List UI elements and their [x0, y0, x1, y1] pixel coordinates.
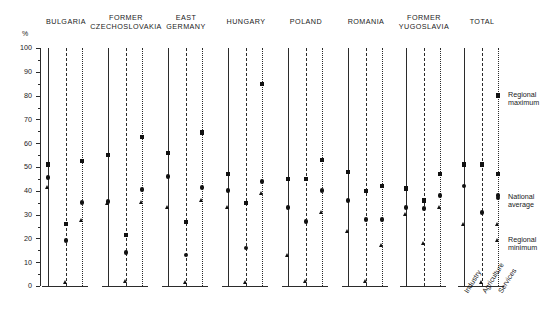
- y-axis-line: [40, 48, 41, 286]
- marker-agriculture-circle: [124, 250, 129, 255]
- marker-agriculture-circle: [244, 246, 249, 251]
- y-axis-tick: [36, 72, 40, 73]
- panel-baseline: [222, 286, 268, 287]
- marker-industry-triangle: [165, 205, 169, 209]
- y-axis-tick-label-30: 30: [10, 211, 32, 218]
- series-line-agriculture: [246, 48, 247, 286]
- marker-services-triangle: [319, 210, 323, 214]
- panel-title-east-germany: EAST GERMANY: [148, 14, 224, 31]
- marker-services-triangle: [495, 222, 499, 226]
- series-line-industry: [48, 48, 49, 286]
- marker-agriculture-square: [304, 177, 308, 181]
- y-axis-tick-label-70: 70: [10, 116, 32, 123]
- marker-agriculture-triangle: [123, 279, 127, 283]
- marker-industry-square: [404, 186, 408, 190]
- legend-marker-square: [496, 93, 500, 97]
- y-axis-tick: [36, 167, 40, 168]
- marker-industry-square: [286, 177, 290, 181]
- marker-agriculture-circle: [364, 217, 369, 222]
- y-axis-tick: [36, 215, 40, 216]
- panel-bulgaria: [42, 48, 90, 286]
- marker-services-circle: [320, 188, 325, 193]
- marker-services-triangle: [379, 243, 383, 247]
- y-axis-tick: [38, 227, 41, 228]
- series-line-industry: [228, 48, 229, 286]
- marker-agriculture-triangle: [63, 280, 67, 284]
- marker-agriculture-square: [480, 162, 484, 166]
- marker-services-square: [380, 184, 384, 188]
- y-axis-tick: [38, 250, 41, 251]
- marker-agriculture-triangle: [363, 279, 367, 283]
- y-axis-tick-label-50: 50: [10, 163, 32, 170]
- marker-industry-square: [46, 162, 50, 166]
- marker-industry-circle: [462, 184, 467, 189]
- marker-services-triangle: [139, 200, 143, 204]
- chart-canvas: % 0102030405060708090100 BULGARIAFORMER …: [0, 0, 559, 333]
- series-line-services: [498, 48, 499, 286]
- y-axis-tick: [36, 143, 40, 144]
- y-axis-tick-label-0: 0: [10, 282, 32, 289]
- legend-label-national-average: National average: [508, 193, 534, 210]
- series-line-agriculture: [424, 48, 425, 286]
- marker-services-circle: [260, 179, 265, 184]
- y-axis-tick: [38, 131, 41, 132]
- marker-industry-circle: [46, 175, 51, 180]
- y-axis-unit-label: %: [22, 30, 28, 37]
- y-axis-tick: [36, 238, 40, 239]
- y-axis-tick: [38, 274, 41, 275]
- panel-east-germany: [162, 48, 210, 286]
- y-axis-tick: [36, 48, 40, 49]
- marker-agriculture-triangle: [421, 241, 425, 245]
- y-axis-tick-label-100: 100: [10, 44, 32, 51]
- series-line-industry: [168, 48, 169, 286]
- marker-industry-circle: [226, 188, 231, 193]
- y-axis-tick: [38, 179, 41, 180]
- panel-former-yugoslavia: [400, 48, 448, 286]
- marker-agriculture-square: [244, 201, 248, 205]
- series-line-industry: [288, 48, 289, 286]
- marker-agriculture-circle: [480, 210, 485, 215]
- y-axis-tick: [38, 108, 41, 109]
- marker-services-triangle: [437, 205, 441, 209]
- series-line-services: [440, 48, 441, 286]
- marker-services-square: [200, 130, 204, 134]
- marker-industry-triangle: [105, 201, 109, 205]
- marker-services-circle: [438, 193, 443, 198]
- marker-industry-square: [462, 162, 466, 166]
- y-axis-tick: [36, 286, 40, 287]
- y-axis-tick-label-10: 10: [10, 259, 32, 266]
- panel-baseline: [342, 286, 388, 287]
- series-line-services: [82, 48, 83, 286]
- panel-poland: [282, 48, 330, 286]
- marker-services-triangle: [199, 198, 203, 202]
- series-line-industry: [464, 48, 465, 286]
- y-axis-tick: [36, 191, 40, 192]
- marker-industry-square: [166, 151, 170, 155]
- marker-agriculture-circle: [422, 206, 427, 211]
- panel-baseline: [102, 286, 148, 287]
- y-axis-tick: [36, 262, 40, 263]
- marker-industry-square: [106, 153, 110, 157]
- series-line-industry: [108, 48, 109, 286]
- marker-services-circle: [200, 185, 205, 190]
- marker-industry-circle: [166, 174, 171, 179]
- panel-baseline: [42, 286, 88, 287]
- marker-industry-circle: [346, 198, 351, 203]
- y-axis-tick: [38, 84, 41, 85]
- legend-label-regional-minimum: Regional minimum: [508, 236, 537, 253]
- marker-agriculture-square: [422, 198, 426, 202]
- panel-title-hungary: HUNGARY: [208, 18, 284, 27]
- marker-industry-triangle: [461, 222, 465, 226]
- marker-industry-triangle: [285, 253, 289, 257]
- marker-agriculture-triangle: [243, 280, 247, 284]
- marker-industry-triangle: [225, 205, 229, 209]
- y-axis-tick: [38, 60, 41, 61]
- panel-title-total: TOTAL: [444, 18, 520, 27]
- panel-hungary: [222, 48, 270, 286]
- series-line-agriculture: [366, 48, 367, 286]
- series-line-agriculture: [306, 48, 307, 286]
- marker-services-circle: [140, 187, 145, 192]
- marker-agriculture-circle: [184, 253, 189, 258]
- marker-industry-square: [226, 172, 230, 176]
- y-axis-tick-label-60: 60: [10, 140, 32, 147]
